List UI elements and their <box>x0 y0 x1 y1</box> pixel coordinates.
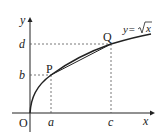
y-axis-label: y <box>19 13 26 27</box>
sqrt-curve-diagram: y x O P Q a c b d y= x <box>0 0 161 139</box>
y-axis-arrow <box>28 17 33 22</box>
tick-c-label: c <box>108 115 114 129</box>
origin-label: O <box>19 116 28 130</box>
x-axis-arrow <box>150 111 155 116</box>
equation-radicand: x <box>145 22 151 34</box>
tick-b-label: b <box>19 68 25 82</box>
tick-d-label: d <box>19 37 26 51</box>
x-axis-label: x <box>142 114 149 128</box>
tick-a-label: a <box>48 115 54 129</box>
chord-pq <box>51 44 111 75</box>
point-q-label: Q <box>103 30 112 44</box>
equation-prefix: y= <box>122 23 135 35</box>
point-p-label: P <box>46 62 53 76</box>
